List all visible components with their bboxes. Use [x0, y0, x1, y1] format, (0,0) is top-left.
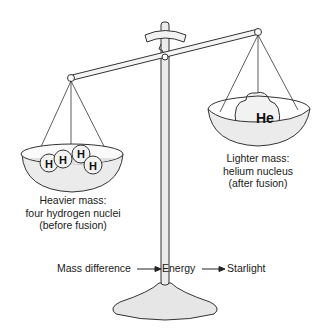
right-pan-label: Lighter mass: helium nucleus (after fusi… — [196, 152, 320, 190]
svg-text:H: H — [89, 160, 97, 172]
beam-right-pivot — [255, 29, 262, 36]
left-label-line-3: (before fusion) — [6, 219, 140, 232]
flow-mass-difference: Mass difference — [57, 262, 131, 274]
svg-text:H: H — [45, 158, 53, 170]
beam-left-pivot — [68, 75, 75, 82]
left-pan-label: Heavier mass: four hydrogen nuclei (befo… — [6, 194, 140, 232]
flow-starlight: Starlight — [227, 262, 266, 274]
svg-text:H: H — [77, 148, 85, 160]
left-label-line-1: Heavier mass: — [6, 194, 140, 207]
right-label-line-1: Lighter mass: — [196, 152, 320, 165]
helium-symbol: He — [256, 110, 274, 126]
flow-energy: Energy — [162, 262, 195, 274]
left-label-line-2: four hydrogen nuclei — [6, 207, 140, 220]
beam-center-joint — [162, 54, 168, 60]
right-label-line-3: (after fusion) — [196, 177, 320, 190]
right-label-line-2: helium nucleus — [196, 165, 320, 178]
scale-post — [161, 22, 169, 285]
scale-base — [113, 283, 217, 320]
svg-text:H: H — [59, 154, 67, 166]
